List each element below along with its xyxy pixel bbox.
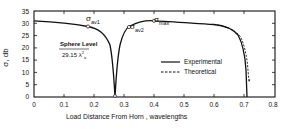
legend-experimental-label: Experimental: [184, 58, 222, 65]
sigma-av1-subscript: av1: [91, 19, 100, 25]
legend-theoretical-label: Theoretical: [184, 68, 216, 75]
svg-text:0.5: 0.5: [179, 101, 188, 108]
y-axis-label: σ, db: [1, 48, 10, 66]
svg-text:5: 5: [25, 81, 29, 88]
sigma-av1-marker: [86, 25, 89, 28]
svg-text:0.8: 0.8: [268, 101, 277, 108]
sigma-av2-subscript: av2: [135, 27, 144, 33]
sphere-level-value: 29.15 λ2o: [62, 50, 86, 60]
svg-text:10: 10: [22, 69, 30, 76]
svg-text:0: 0: [25, 93, 29, 100]
svg-text:0.1: 0.1: [59, 101, 68, 108]
sigma-max-subscript: max: [159, 20, 169, 26]
svg-text:15: 15: [22, 56, 30, 63]
svg-text:0.3: 0.3: [119, 101, 128, 108]
sigma-av2-label: σav2: [130, 22, 144, 33]
svg-text:0.2: 0.2: [89, 101, 98, 108]
x-tick-labels: 00.1 0.20.3 0.40.5 0.60.7 0.8: [32, 101, 278, 108]
sphere-value-text: 29.15 λ: [62, 52, 82, 58]
chart: 05 1015 2025 3035 00.1 0.20.3 0.40.5 0.6…: [0, 0, 282, 129]
svg-text:0: 0: [32, 101, 36, 108]
sphere-level-label: Sphere Level: [60, 41, 97, 47]
y-tick-labels: 05 1015 2025 3035: [22, 8, 30, 101]
sigma-av1-label: σav1: [86, 14, 100, 25]
svg-text:25: 25: [22, 32, 30, 39]
sigma-max-label: σmax: [154, 15, 169, 26]
sphere-value-sub: o: [84, 55, 86, 60]
svg-text:20: 20: [22, 44, 30, 51]
x-axis-label: Load Distance From Horn , wavelengths: [66, 113, 187, 120]
svg-text:0.7: 0.7: [239, 101, 248, 108]
svg-text:30: 30: [22, 20, 30, 27]
svg-text:0.6: 0.6: [209, 101, 218, 108]
svg-text:0.4: 0.4: [149, 101, 158, 108]
null-marker: [114, 95, 117, 98]
svg-text:35: 35: [22, 8, 30, 15]
